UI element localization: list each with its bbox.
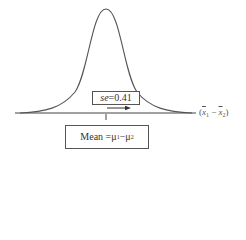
mu2-subscript: 2 (131, 134, 134, 140)
se-symbol: se (100, 93, 108, 103)
standard-error-label: se = 0.41 (92, 91, 140, 105)
se-arrow-icon (107, 106, 131, 110)
paren-close: ) (226, 107, 229, 117)
se-value: 0.41 (114, 93, 132, 103)
mean-text: Mean = (80, 132, 111, 142)
axis-minus: − (209, 107, 219, 117)
x-axis-label: (x1 − x2) (199, 107, 229, 118)
mean-label: Mean = μ1 − μ2 (65, 125, 149, 149)
